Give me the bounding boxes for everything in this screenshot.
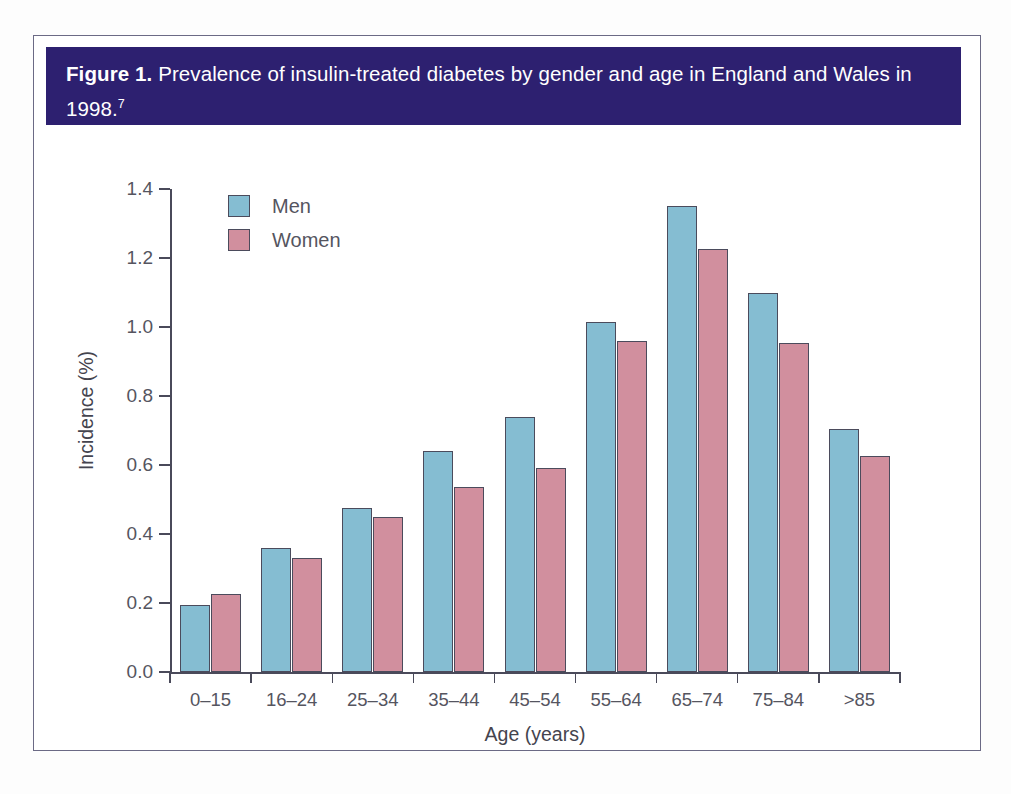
figure-caption: Prevalence of insulin-treated diabetes b… [66,62,912,120]
bar-women-4 [536,468,566,672]
figure-title-bar: Figure 1. Prevalence of insulin-treated … [46,47,961,125]
y-axis-tick-label: 1.4 [107,178,153,200]
legend-item-women: Women [228,223,341,257]
y-axis-tick [159,326,170,327]
y-axis-tick [159,395,170,396]
figure-number: Figure 1. [66,62,152,85]
chart-legend: MenWomen [228,189,341,257]
bar-men-1 [261,548,291,672]
y-axis-tick [159,602,170,603]
bar-men-8 [829,429,859,672]
figure-page: Figure 1. Prevalence of insulin-treated … [0,0,1011,794]
chart-area: 0.00.20.40.60.81.01.21.4 0–1516–2425–343… [46,131,961,736]
x-axis-tick [818,672,819,683]
figure-title-text: Figure 1. Prevalence of insulin-treated … [66,59,943,124]
bar-women-6 [698,249,728,672]
figure-reference-superscript: 7 [118,97,125,111]
bar-women-5 [617,341,647,672]
x-axis-tick [494,672,495,683]
bar-men-2 [342,508,372,672]
y-axis-tick-label: 1.0 [107,316,153,338]
y-axis-tick-label: 0.2 [107,592,153,614]
y-axis-tick [159,464,170,465]
x-axis-title: Age (years) [170,723,900,746]
bar-men-5 [586,322,616,672]
bar-men-0 [180,605,210,672]
legend-label: Women [272,229,341,252]
x-axis-tick [169,672,170,683]
y-axis-tick [159,188,170,189]
y-axis-tick [159,257,170,258]
y-axis-tick [159,533,170,534]
bar-women-1 [292,558,322,672]
legend-swatch-icon [228,195,250,217]
x-axis-tick [250,672,251,683]
x-axis-tick [413,672,414,683]
bar-men-3 [423,451,453,672]
bar-men-4 [505,417,535,672]
y-axis-tick-label: 0.8 [107,385,153,407]
legend-label: Men [272,195,311,218]
bar-men-6 [667,206,697,672]
x-axis-line [170,672,900,674]
y-axis-line [170,189,172,674]
x-axis-tick [899,672,900,683]
x-axis-tick [737,672,738,683]
bar-women-0 [211,594,241,672]
x-axis-tick [656,672,657,683]
x-axis-tick-label: >85 [799,689,919,711]
legend-item-men: Men [228,189,341,223]
bar-women-3 [454,487,484,672]
x-axis-tick [575,672,576,683]
bar-women-2 [373,517,403,672]
y-axis-tick-label: 0.4 [107,523,153,545]
legend-swatch-icon [228,229,250,251]
y-axis-tick-label: 1.2 [107,247,153,269]
bar-chart-plot: 0.00.20.40.60.81.01.21.4 0–1516–2425–343… [46,131,961,736]
x-axis-tick [332,672,333,683]
y-axis-tick-label: 0.6 [107,454,153,476]
bar-women-7 [779,343,809,672]
figure-frame: Figure 1. Prevalence of insulin-treated … [33,35,981,751]
bar-women-8 [860,456,890,672]
y-axis-title: Incidence (%) [75,291,98,531]
y-axis-tick-label: 0.0 [107,661,153,683]
bar-men-7 [748,293,778,673]
